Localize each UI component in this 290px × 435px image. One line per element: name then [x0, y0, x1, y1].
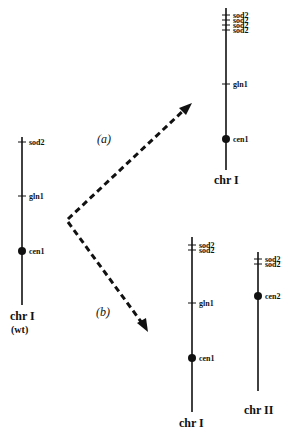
- marker-sod2: sod2: [233, 26, 249, 35]
- marker-cen1: cen1: [199, 354, 215, 363]
- chromosome-label: chr II: [244, 403, 274, 417]
- marker-cen2: cen2: [265, 292, 281, 301]
- marker-gln1: gln1: [199, 299, 214, 308]
- panel-label-b: (b): [96, 305, 110, 319]
- chromosome-label: chr I: [179, 416, 204, 430]
- chromosome-label: chr I: [10, 309, 35, 323]
- marker-sod2: sod2: [29, 138, 45, 147]
- chromosome-label: chr I: [214, 173, 239, 187]
- marker-sod2: sod2: [265, 260, 281, 269]
- chromosome-b-chr2: sod2 sod2 cen2 chr II: [244, 252, 281, 417]
- marker-cen1: cen1: [233, 135, 249, 144]
- centromere-icon: [222, 135, 230, 143]
- chromosome-a-chr1: sod2 sod2 sod2 sod2 gln1 cen1 chr I: [214, 8, 249, 187]
- marker-cen1: cen1: [29, 247, 45, 256]
- centromere-icon: [18, 247, 26, 255]
- panel-label-a: (a): [97, 132, 111, 146]
- chromosome-diagram: sod2 gln1 cen1 chr I (wt) (a) (b) sod2 s…: [0, 0, 290, 435]
- marker-sod2: sod2: [199, 246, 215, 255]
- centromere-icon: [188, 354, 196, 362]
- marker-gln1: gln1: [29, 192, 44, 201]
- chromosome-sublabel: (wt): [11, 324, 28, 336]
- chromosome-wt: sod2 gln1 cen1 chr I (wt): [10, 137, 45, 336]
- centromere-icon: [254, 292, 262, 300]
- arrow-a: [68, 103, 192, 219]
- marker-gln1: gln1: [233, 80, 248, 89]
- chromosome-b-chr1: sod2 sod2 gln1 cen1 chr I: [179, 237, 215, 430]
